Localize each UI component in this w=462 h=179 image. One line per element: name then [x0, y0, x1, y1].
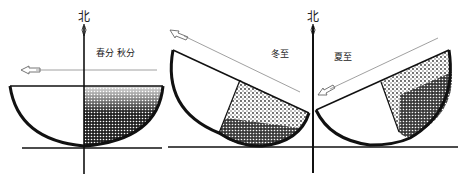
- equinox-panel: 北 春分 秋分: [10, 10, 163, 174]
- sun-ray-arrow-icon: [318, 85, 335, 95]
- equinox-label: 春分 秋分: [96, 47, 135, 58]
- north-label: 北: [78, 10, 90, 24]
- north-label: 北: [307, 10, 319, 24]
- summer-solstice-label: 夏至: [334, 52, 352, 62]
- winter-solstice-label: 冬至: [271, 48, 289, 59]
- summer-solstice-panel: 夏至: [316, 38, 452, 145]
- winter-solstice-panel: 冬至: [170, 30, 309, 146]
- sundial-diagram: 北 春分 秋分 冬至 北 夏至: [0, 0, 462, 179]
- sun-ray-arrow-icon: [170, 30, 188, 40]
